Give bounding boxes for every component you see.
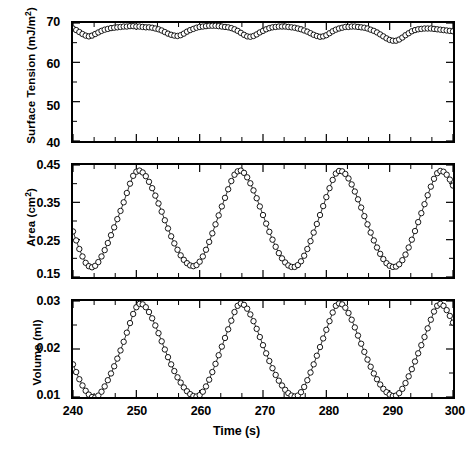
- ytick-label: 0.01: [18, 388, 60, 402]
- xaxis-label: Time (s): [0, 424, 473, 438]
- ytick-label: 0.45: [18, 158, 60, 172]
- xtick-label: 290: [373, 404, 413, 418]
- plot-frame-surface-tension: [71, 21, 455, 143]
- ytick-label: 0.02: [18, 341, 60, 355]
- ylabel-text: Surface Tension (mJ/m: [25, 16, 37, 144]
- ytick-label: 60: [30, 57, 60, 71]
- plot-canvas-surface-tension: [73, 23, 453, 141]
- xtick-label: 280: [309, 404, 349, 418]
- plot-frame-area: [71, 163, 455, 279]
- ylabel-tail: ): [25, 7, 37, 11]
- xtick-label: 250: [117, 404, 157, 418]
- figure-root: Surface Tension (mJ/m2) 70 60 50 40 Area…: [0, 0, 473, 459]
- ylabel-tail: ): [25, 188, 37, 192]
- xtick-label: 240: [53, 404, 93, 418]
- plot-canvas-area: [73, 165, 453, 277]
- ytick-label: 40: [30, 136, 60, 150]
- xtick-label: 260: [181, 404, 221, 418]
- plot-canvas-volume: [73, 301, 453, 397]
- ytick-label: 70: [30, 15, 60, 29]
- panel-area-ylabel: Area (cm2): [23, 162, 38, 272]
- ytick-label: 0.03: [18, 294, 60, 308]
- xtick-label: 270: [245, 404, 285, 418]
- ytick-label: 0.15: [18, 267, 60, 281]
- xtick-label: 300: [435, 404, 473, 418]
- plot-frame-volume: [71, 299, 455, 399]
- ytick-label: 0.25: [18, 234, 60, 248]
- ytick-label: 0.35: [18, 196, 60, 210]
- ytick-label: 50: [30, 99, 60, 113]
